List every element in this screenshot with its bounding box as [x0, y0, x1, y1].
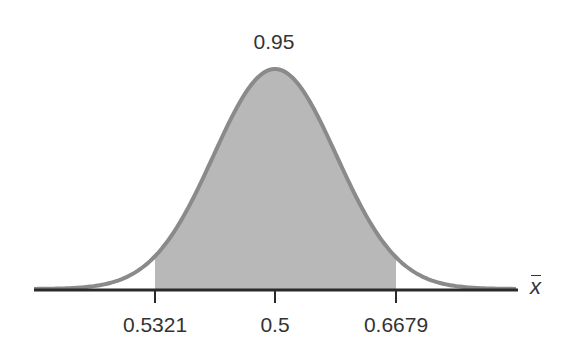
- tick-label-left: 0.5321: [123, 313, 187, 337]
- tick-label-right: 0.6679: [364, 313, 428, 337]
- area-label: 0.95: [254, 30, 295, 54]
- axis-label-xbar: x: [530, 274, 541, 300]
- axis-label-text: x: [530, 274, 541, 299]
- shaded-area: [155, 69, 396, 289]
- tick-label-center: 0.5: [260, 313, 289, 337]
